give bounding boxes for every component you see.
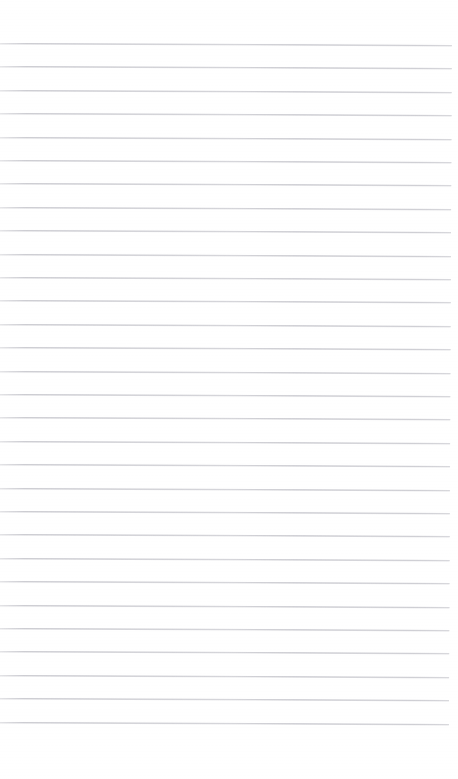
rule-line xyxy=(0,464,450,467)
rule-line xyxy=(0,651,449,654)
rule-line xyxy=(0,628,449,631)
rule-line xyxy=(0,113,452,116)
rule-line xyxy=(0,511,450,514)
rule-line xyxy=(0,675,449,678)
rule-line xyxy=(0,371,450,374)
rule-line xyxy=(0,300,451,303)
rule-line xyxy=(0,160,451,163)
rule-line xyxy=(0,324,451,327)
rule-line xyxy=(0,230,451,233)
rule-line xyxy=(0,183,451,186)
rule-line xyxy=(0,417,450,420)
rule-line xyxy=(0,394,450,397)
rule-line xyxy=(0,488,450,491)
rule-line xyxy=(0,558,450,561)
rule-line xyxy=(0,137,451,140)
scanned-page xyxy=(0,0,458,779)
rule-line xyxy=(0,534,450,537)
rule-line xyxy=(0,347,450,350)
rule-line xyxy=(0,441,450,444)
rule-line xyxy=(0,605,449,608)
ruled-lines-group xyxy=(0,0,458,779)
rule-line xyxy=(0,698,449,701)
rule-line xyxy=(0,277,451,280)
rule-line xyxy=(0,722,449,725)
rule-line xyxy=(0,254,451,257)
rule-line xyxy=(0,581,449,584)
rule-line xyxy=(0,66,452,69)
rule-line xyxy=(0,207,451,210)
rule-line xyxy=(0,43,452,46)
rule-line xyxy=(0,90,452,93)
